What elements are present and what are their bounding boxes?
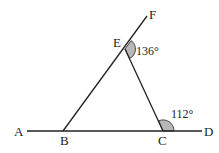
angle-label-e: 136° <box>136 44 159 58</box>
angle-label-c: 112° <box>171 107 194 121</box>
label-a: A <box>14 124 24 139</box>
label-d: D <box>204 124 213 139</box>
label-f: F <box>149 7 156 22</box>
line-bf <box>63 16 147 131</box>
label-e: E <box>113 35 121 50</box>
geometry-diagram: A B C D E F 136° 112° <box>0 0 219 153</box>
line-ec <box>125 49 163 131</box>
label-c: C <box>158 133 167 148</box>
label-b: B <box>60 133 69 148</box>
